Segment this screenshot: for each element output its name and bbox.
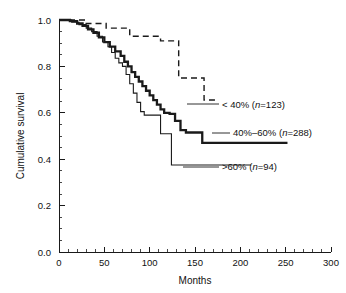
figure-container: 050100150200250300 0.00.20.40.60.81.0 < …: [0, 0, 346, 293]
series-label-lt40: < 40% (n=123): [222, 99, 285, 110]
x-tick-label: 250: [278, 257, 294, 268]
x-axis-title: Months: [179, 275, 212, 286]
y-tick-label: 0.8: [38, 61, 51, 72]
x-tick-label: 0: [56, 257, 61, 268]
x-tick-label: 200: [232, 257, 248, 268]
series-label-mid4060: 40%–60% (n=288): [233, 127, 312, 138]
y-tick-label: 0.2: [38, 200, 51, 211]
y-axis-title: Cumulative survival: [15, 93, 26, 180]
survival-curve-chart: 050100150200250300 0.00.20.40.60.81.0 < …: [0, 0, 346, 293]
x-tick-label: 150: [187, 257, 203, 268]
y-tick-label: 0.6: [38, 107, 51, 118]
series-label-gt60: >60% (n=94): [222, 161, 277, 172]
y-tick-label: 0.0: [38, 247, 51, 258]
x-tick-label: 100: [142, 257, 158, 268]
x-tick-label: 50: [99, 257, 110, 268]
chart-background: [0, 0, 346, 293]
y-tick-label: 1.0: [38, 15, 51, 26]
x-tick-label: 300: [323, 257, 339, 268]
y-tick-label: 0.4: [38, 154, 51, 165]
